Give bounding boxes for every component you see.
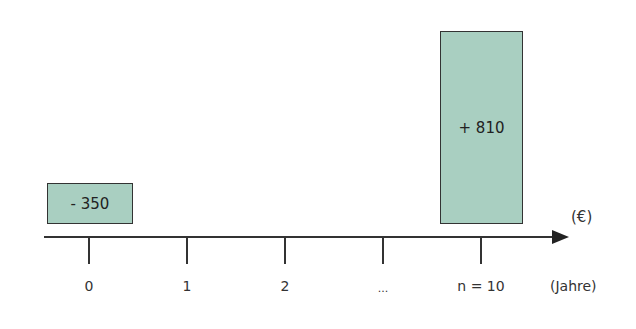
- tick-2: [284, 237, 286, 264]
- cashflow-box-inflow: + 810: [440, 31, 523, 224]
- tick-label-0: 0: [85, 278, 94, 294]
- tick-0: [88, 237, 90, 264]
- cashflow-box-outflow: - 350: [47, 183, 133, 224]
- tick-label-ellipsis: ...: [378, 282, 389, 295]
- currency-unit-label: (€): [571, 208, 592, 226]
- tick-label-2: 2: [281, 278, 290, 294]
- time-unit-label: (Jahre): [550, 278, 597, 294]
- inflow-label: + 810: [459, 119, 505, 137]
- axis-arrow-icon: [552, 230, 569, 244]
- tick-label-n: n = 10: [457, 278, 504, 294]
- tick-label-1: 1: [183, 278, 192, 294]
- outflow-label: - 350: [71, 195, 110, 213]
- tick-1: [186, 237, 188, 264]
- tick-n: [480, 237, 482, 264]
- tick-ellipsis: [382, 237, 384, 264]
